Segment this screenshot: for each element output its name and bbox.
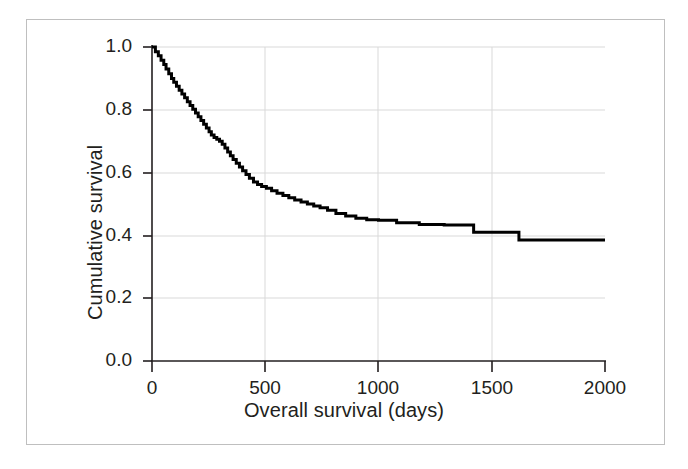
x-axis-title: Overall survival (days)	[0, 399, 688, 422]
axes	[143, 45, 606, 372]
y-tick-label-3: 0.6	[72, 161, 132, 183]
y-tick-label-2: 0.8	[72, 98, 132, 120]
x-tick-label-5: 2000	[565, 377, 645, 399]
x-tick-label-1: 0	[112, 377, 192, 399]
y-tick-label-6: 0.0	[72, 349, 132, 371]
x-tick-label-4: 1500	[452, 377, 532, 399]
y-tick-label-4: 0.4	[72, 224, 132, 246]
y-tick-label-1: 1.0	[72, 35, 132, 57]
y-tick-label-5: 0.2	[72, 286, 132, 308]
gridlines	[152, 47, 605, 361]
x-tick-label-2: 500	[225, 377, 305, 399]
x-tick-label-3: 1000	[338, 377, 418, 399]
